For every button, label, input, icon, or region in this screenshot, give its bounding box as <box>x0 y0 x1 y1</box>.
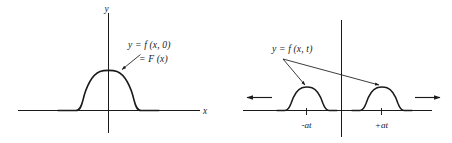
leader-line-initial-pulse <box>122 55 141 70</box>
y-axis-label-left-panel: y <box>104 4 110 14</box>
tick-label-plus-at: +at <box>375 120 389 130</box>
right-travelling-pulse-curve <box>352 87 412 110</box>
wave-pulse-diagram: y = f (x, 0) = F (x) y x y = f (x, t) -a… <box>0 0 452 143</box>
panel-travelling-pulses: y = f (x, t) -at +at <box>243 20 440 137</box>
label-initial-pulse-line1: y = f (x, 0) <box>127 39 171 51</box>
leader-line-right-pulse <box>283 59 379 85</box>
left-travelling-pulse-curve <box>277 87 337 110</box>
tick-label-minus-at: -at <box>301 120 312 130</box>
leader-line-left-pulse <box>283 59 305 85</box>
x-axis-label-left-panel: x <box>202 106 208 116</box>
label-travelling-pulses: y = f (x, t) <box>271 43 313 55</box>
label-initial-pulse-line2: = F (x) <box>139 53 168 65</box>
panel-initial-pulse: y = f (x, 0) = F (x) y x <box>18 4 208 133</box>
figure-container: y = f (x, 0) = F (x) y x y = f (x, t) -a… <box>0 0 452 143</box>
